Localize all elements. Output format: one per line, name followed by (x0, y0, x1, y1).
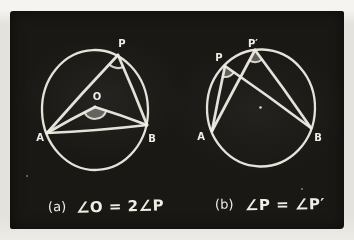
label-point-a2: A (197, 131, 205, 142)
chalk-speck (301, 188, 303, 190)
segment-pprime-to-b (255, 50, 311, 128)
caption-index-b: (b) (215, 197, 234, 212)
label-point-p2: P (215, 52, 222, 63)
label-point-p: P (118, 38, 125, 49)
label-point-pprime: P′ (248, 38, 258, 49)
diagram-b: P P′ A B (b) ∠P = ∠P′ (197, 38, 325, 215)
caption-index-a: (a) (48, 199, 67, 214)
diagram-a: P O A B (a) ∠O = 2∠P (36, 38, 164, 217)
chalk-speck (26, 175, 28, 177)
geometry-figure: P O A B (a) ∠O = 2∠P (0, 0, 354, 240)
segment-p-to-b2 (225, 66, 311, 128)
caption-equation-b: ∠P = ∠P′ (245, 195, 325, 214)
label-point-b2: B (314, 132, 322, 143)
label-point-o: O (93, 91, 102, 102)
label-point-a: A (36, 132, 44, 143)
circle-center-dot (259, 106, 262, 109)
chord-a-to-b (47, 125, 147, 133)
caption-equation-a: ∠O = 2∠P (76, 196, 165, 216)
page-background: P O A B (a) ∠O = 2∠P (0, 0, 354, 240)
angle-mark-p (109, 65, 123, 68)
segment-o-to-a (47, 107, 95, 133)
segment-p-to-b (118, 55, 147, 125)
label-point-b: B (148, 133, 156, 144)
